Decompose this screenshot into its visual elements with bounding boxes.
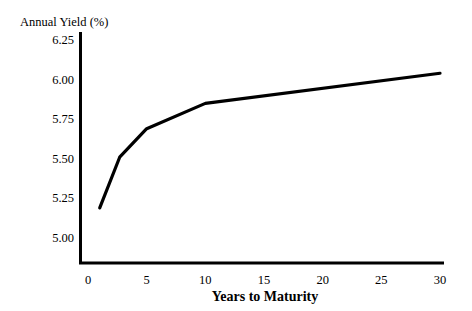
y-tick-label-6-00: 6.00 <box>52 73 74 87</box>
y-axis-title: Annual Yield (%) <box>20 15 108 29</box>
y-tick-label-5-00: 5.00 <box>52 231 74 245</box>
x-tick-label-0: 0 <box>85 273 91 287</box>
y-tick-label-5-75: 5.75 <box>52 112 74 126</box>
y-tick-label-5-25: 5.25 <box>52 191 74 205</box>
x-tick-label-30: 30 <box>434 273 447 287</box>
y-tick-label-6-25: 6.25 <box>52 33 74 47</box>
x-tick-label-5: 5 <box>144 273 150 287</box>
chart-canvas: Annual Yield (%) 6.25 6.00 5.75 5.50 5.2… <box>0 0 472 311</box>
y-tick-label-5-50: 5.50 <box>52 152 74 166</box>
x-tick-label-25: 25 <box>375 273 388 287</box>
x-tick-label-20: 20 <box>316 273 329 287</box>
x-tick-label-10: 10 <box>199 273 212 287</box>
x-axis-title: Years to Maturity <box>212 289 319 304</box>
yield-curve-chart: Annual Yield (%) 6.25 6.00 5.75 5.50 5.2… <box>0 0 472 311</box>
x-tick-label-15: 15 <box>258 273 271 287</box>
